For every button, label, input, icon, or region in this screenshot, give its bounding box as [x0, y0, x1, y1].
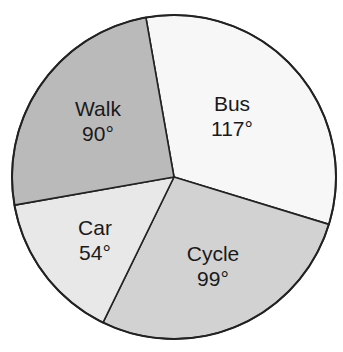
slice-value: 90° [75, 121, 121, 146]
slice-value: 54° [78, 240, 112, 265]
slice-value: 117° [211, 116, 253, 141]
slice-name: Walk [75, 96, 121, 121]
slice-label-car: Car 54° [78, 215, 112, 265]
slice-label-bus: Bus 117° [211, 91, 253, 141]
slice-label-cycle: Cycle 99° [187, 241, 240, 291]
slice-name: Bus [211, 91, 253, 116]
slice-name: Car [78, 215, 112, 240]
pie-chart [0, 0, 343, 352]
slice-name: Cycle [187, 241, 240, 266]
slice-value: 99° [187, 266, 240, 291]
slice-label-walk: Walk 90° [75, 96, 121, 146]
